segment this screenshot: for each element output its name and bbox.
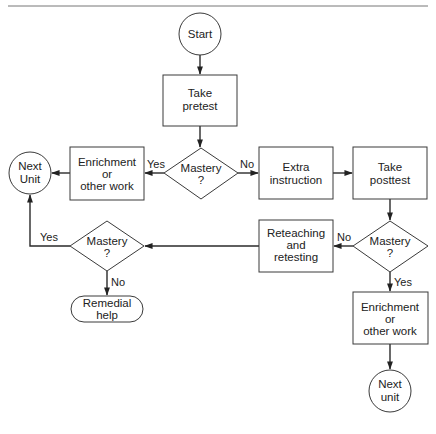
node-start-label: Start <box>188 28 213 40</box>
node-posttest-line1: Take <box>378 161 402 173</box>
node-enrichment1-line2: or <box>102 168 112 180</box>
node-reteaching-line2: and <box>286 239 305 251</box>
node-extra-instruction: Extra instruction <box>259 147 333 199</box>
node-mastery-3: Mastery ? <box>70 221 144 271</box>
node-enrichment-1: Enrichment or other work <box>70 147 144 200</box>
node-reteaching: Reteaching and retesting <box>259 220 333 272</box>
node-nextunit-left-line2: Unit <box>20 173 41 185</box>
node-mastery3-line2: ? <box>104 247 110 259</box>
node-enrichment2-line3: other work <box>363 325 417 337</box>
node-mastery2-line2: ? <box>387 247 393 259</box>
node-start: Start <box>179 13 221 55</box>
node-mastery1-line1: Mastery <box>181 162 222 174</box>
label-m3-yes: Yes <box>40 231 58 243</box>
node-enrichment1-line1: Enrichment <box>78 156 137 168</box>
node-posttest-line2: posttest <box>370 174 411 186</box>
node-mastery3-line1: Mastery <box>87 235 128 247</box>
label-m2-yes: Yes <box>394 276 412 288</box>
label-m2-no: No <box>337 231 351 243</box>
node-remedial-line2: help <box>96 309 118 321</box>
node-nextunit-left-line1: Next <box>18 160 42 172</box>
node-remedial-line1: Remedial <box>83 297 132 309</box>
flowchart: Yes No No Yes Yes No Start Take pretest … <box>0 0 436 434</box>
node-mastery-2: Mastery ? <box>353 221 428 272</box>
node-take-posttest: Take posttest <box>353 147 427 199</box>
node-pretest-line1: Take <box>188 87 212 99</box>
node-mastery1-line2: ? <box>198 174 204 186</box>
node-extra-line2: instruction <box>270 174 322 186</box>
node-pretest-line2: pretest <box>182 100 218 112</box>
node-take-pretest: Take pretest <box>163 75 237 126</box>
node-mastery2-line1: Mastery <box>370 235 411 247</box>
label-m3-no: No <box>111 276 125 288</box>
node-reteaching-line1: Reteaching <box>267 227 325 239</box>
node-next-unit-bottom: Next unit <box>369 370 411 412</box>
node-nextunit-bottom-line2: unit <box>381 391 400 403</box>
label-m1-yes: Yes <box>147 158 165 170</box>
label-m1-no: No <box>240 158 254 170</box>
node-reteaching-line3: retesting <box>274 251 318 263</box>
node-mastery-1: Mastery ? <box>164 148 238 199</box>
node-nextunit-bottom-line1: Next <box>378 378 402 390</box>
node-enrichment2-line1: Enrichment <box>361 301 420 313</box>
node-enrichment1-line3: other work <box>80 180 134 192</box>
node-enrichment-2: Enrichment or other work <box>353 292 428 344</box>
node-next-unit-left: Next Unit <box>9 152 51 194</box>
node-remedial-help: Remedial help <box>71 296 143 322</box>
node-enrichment2-line2: or <box>385 313 395 325</box>
node-extra-line1: Extra <box>283 161 310 173</box>
